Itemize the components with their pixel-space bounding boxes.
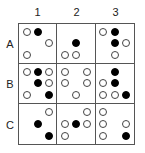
dot-slot [70,78,81,90]
dot-slot [59,49,70,61]
column-label-2: 2 [57,6,96,18]
dot-slot [70,49,81,61]
white-circle-icon [61,120,69,128]
white-circle-icon [122,39,130,47]
dot-slot [21,78,32,90]
dot-slot [109,26,120,38]
dot-slot [70,130,81,142]
black-circle-icon [45,91,53,99]
dot-slot [43,78,54,90]
dot-slot [32,118,43,130]
white-circle-icon [83,68,91,76]
dot-slot [21,130,32,142]
dot-slot [21,38,32,50]
black-circle-icon [72,120,80,128]
black-circle-icon [34,79,42,87]
white-circle-icon [45,39,53,47]
column-label-1: 1 [18,6,57,18]
dot-slot [43,26,54,38]
dot-slot [82,78,93,90]
cell-b2 [57,64,95,104]
white-circle-icon [61,132,69,140]
cell-a1 [19,24,57,64]
white-circle-icon [23,91,31,99]
black-circle-icon [111,28,119,36]
puzzle-grid [18,23,135,145]
dot-slot [21,66,32,78]
white-circle-icon [99,132,107,140]
dot-slot [21,49,32,61]
dot-slot [98,89,109,101]
black-circle-icon [122,91,130,99]
white-circle-icon [99,79,107,87]
dot-slot [82,66,93,78]
white-circle-icon [83,108,91,116]
dot-slot [109,38,120,50]
black-circle-icon [34,28,42,36]
white-circle-icon [83,120,91,128]
dot-slot [21,26,32,38]
cell-c3 [96,104,134,144]
dot-slot [98,49,109,61]
dot-slot [121,89,132,101]
dot-slot [32,89,43,101]
dot-slot [59,118,70,130]
dot-slot [70,118,81,130]
white-circle-icon [122,120,130,128]
dot-slot [98,26,109,38]
dot-slot [121,130,132,142]
black-circle-icon [34,68,42,76]
dot-slot [82,106,93,118]
white-circle-icon [61,51,69,59]
dot-slot [32,106,43,118]
dot-slot [121,118,132,130]
black-circle-icon [72,39,80,47]
dot-slot [32,49,43,61]
cell-c2 [57,104,95,144]
cell-b3 [96,64,134,104]
dot-slot [59,26,70,38]
black-circle-icon [111,68,119,76]
dot-slot [59,89,70,101]
dot-slot [59,106,70,118]
white-circle-icon [23,51,31,59]
white-circle-icon [83,79,91,87]
dot-slot [98,130,109,142]
dot-slot [82,49,93,61]
white-circle-icon [23,68,31,76]
white-circle-icon [111,51,119,59]
cell-b1 [19,64,57,104]
dot-slot [43,118,54,130]
dot-slot [32,26,43,38]
dot-slot [98,38,109,50]
cell-c1 [19,104,57,144]
dot-slot [32,38,43,50]
dot-slot [43,89,54,101]
cell-a2 [57,24,95,64]
dot-slot [109,78,120,90]
dot-slot [109,118,120,130]
dot-slot [98,78,109,90]
dot-slot [82,130,93,142]
white-circle-icon [45,68,53,76]
dot-slot [70,26,81,38]
white-circle-icon [99,108,107,116]
dot-slot [121,38,132,50]
white-circle-icon [99,91,107,99]
cell-a3 [96,24,134,64]
dot-slot [82,89,93,101]
dot-slot [98,106,109,118]
white-circle-icon [72,51,80,59]
dot-slot [109,89,120,101]
row-label-c: C [4,119,16,131]
dot-slot [43,106,54,118]
dot-slot [32,66,43,78]
white-circle-icon [61,79,69,87]
dot-slot [43,130,54,142]
black-circle-icon [111,79,119,87]
dot-slot [59,66,70,78]
dot-slot [109,49,120,61]
white-circle-icon [72,91,80,99]
dot-slot [70,89,81,101]
dot-slot [70,38,81,50]
